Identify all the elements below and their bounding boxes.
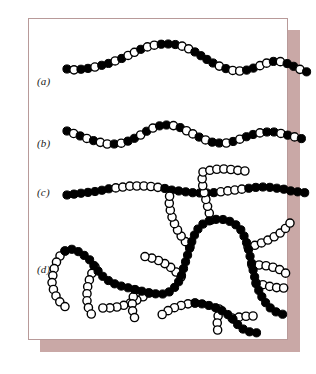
graft-side-chain-7-bead xyxy=(241,167,249,175)
graft-secondary-side-chain-1-bead xyxy=(158,310,166,318)
graft-side-chain-11-bead xyxy=(130,313,138,321)
chain-diagram-canvas xyxy=(29,19,289,341)
graft-side-chain-8-bead xyxy=(286,219,294,227)
graft-side-chain-2-bead xyxy=(87,310,95,318)
graft-secondary-side-chain-3-bead xyxy=(249,312,257,320)
graft-secondary-side-chain-2-bead xyxy=(214,326,222,334)
graft-side-chain-4-bead xyxy=(141,252,149,260)
graft-side-chain-9-bead xyxy=(281,269,289,277)
graft-side-chain-3-bead xyxy=(99,304,107,312)
graft-backbone-bead xyxy=(278,310,286,318)
graft-side-chain-10-bead xyxy=(280,284,288,292)
figure-plate-inner: (a) (b) (c) (d) xyxy=(29,19,287,339)
bead-black xyxy=(297,134,305,142)
graft-side-chain-1-bead xyxy=(61,302,69,310)
chain-statistical-copolymer xyxy=(63,121,306,148)
bead-black xyxy=(301,189,309,197)
graft-backbone-secondary-bead xyxy=(252,329,260,337)
chain-random-copolymer xyxy=(63,40,311,76)
graft-side-chain-5-bead xyxy=(165,192,173,200)
figure-plate: (a) (b) (c) (d) xyxy=(28,18,288,340)
bead-black xyxy=(302,68,310,76)
chain-block-copolymer xyxy=(63,182,309,199)
figure-root: (a) (b) (c) (d) xyxy=(0,0,316,374)
